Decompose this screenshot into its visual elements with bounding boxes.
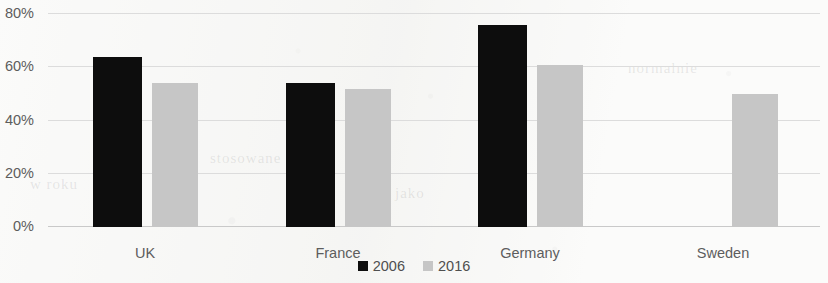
y-tick-label-80: 80% xyxy=(0,5,34,21)
legend-swatch-icon-2006 xyxy=(358,261,368,271)
y-tick-label-0: 0% xyxy=(0,218,34,234)
y-tick-label-60: 60% xyxy=(0,58,34,74)
bar-germany-2016 xyxy=(537,65,583,227)
plot-area: 80% 60% 40% 20% 0% UK France Germany Swe… xyxy=(48,13,820,227)
bar-chart: normalnie stosowane jako w roku 80% 60% … xyxy=(0,0,828,283)
legend-item-2016[interactable]: 2016 xyxy=(423,258,470,274)
bar-france-2006 xyxy=(286,83,335,227)
y-tick-label-40: 40% xyxy=(0,112,34,128)
bar-germany-2006 xyxy=(478,25,527,227)
legend-label-2016: 2016 xyxy=(438,258,470,274)
bar-sweden-2016 xyxy=(732,94,778,227)
bar-uk-2016 xyxy=(152,83,198,227)
legend-item-2006[interactable]: 2006 xyxy=(358,258,405,274)
gridline-80 xyxy=(48,13,820,14)
legend-label-2006: 2006 xyxy=(373,258,405,274)
chart-legend: 2006 2016 xyxy=(0,258,828,274)
y-tick-label-20: 20% xyxy=(0,165,34,181)
bar-uk-2006 xyxy=(93,57,142,227)
bar-france-2016 xyxy=(345,89,391,227)
gridline-60 xyxy=(48,66,820,67)
legend-swatch-icon-2016 xyxy=(423,261,433,271)
